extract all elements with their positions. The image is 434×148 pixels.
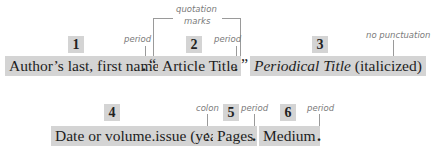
segment-article-title: Article Title bbox=[158, 56, 241, 76]
punct-period-after-author: . bbox=[142, 56, 146, 76]
punct-period-after-pages: . bbox=[252, 126, 256, 146]
segment-number-1: 1 bbox=[68, 36, 84, 53]
segment-number-6: 6 bbox=[280, 104, 296, 121]
bracket-quote-left-top bbox=[153, 18, 173, 19]
segment-number-2: 2 bbox=[186, 36, 202, 53]
bracket-quote-right-top bbox=[222, 18, 241, 19]
annotation-period-2: period bbox=[214, 34, 241, 44]
periodical-title-note: (italicized) bbox=[351, 57, 422, 74]
bracket-quote-left-leg bbox=[153, 18, 154, 56]
segment-author: Author’s last, first name bbox=[5, 56, 163, 76]
punct-colon: : bbox=[205, 126, 209, 146]
punct-period-after-medium: . bbox=[317, 126, 321, 146]
leader-line-colon bbox=[207, 114, 208, 126]
punct-open-quote: “ bbox=[149, 55, 156, 75]
segment-number-4: 4 bbox=[104, 104, 120, 121]
segment-medium: Medium bbox=[259, 126, 320, 146]
segment-number-3: 3 bbox=[312, 36, 328, 53]
leader-line-period-2 bbox=[236, 46, 237, 56]
annotation-colon: colon bbox=[196, 103, 219, 113]
segment-number-5: 5 bbox=[223, 104, 239, 121]
segment-pages: Pages bbox=[213, 126, 257, 146]
annotation-period-1: period bbox=[124, 34, 151, 44]
annotation-no-punctuation: no punctuation bbox=[366, 30, 430, 40]
segment-periodical-title: Periodical Title (italicized) bbox=[250, 56, 426, 76]
punct-close-quote: ” bbox=[241, 55, 248, 75]
annotation-quotation-line1: quotation bbox=[176, 4, 217, 14]
annotation-quotation-line2: marks bbox=[184, 16, 210, 26]
annotation-period-medium: period bbox=[307, 103, 334, 113]
annotation-period-pages: period bbox=[241, 103, 268, 113]
periodical-title-italic: Periodical Title bbox=[254, 57, 351, 74]
leader-line-period-1 bbox=[145, 46, 146, 56]
leader-line-period-medium bbox=[319, 114, 320, 126]
punct-period-after-title: . bbox=[234, 56, 238, 76]
leader-line-period-pages bbox=[254, 114, 255, 126]
leader-line-no-punctuation bbox=[393, 40, 394, 56]
